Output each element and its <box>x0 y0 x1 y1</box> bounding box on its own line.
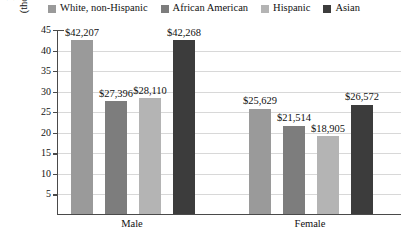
y-axis-title-line-1: Median Income <box>5 0 17 1</box>
y-axis-tick-mark <box>53 133 58 134</box>
legend-item: Hispanic <box>261 3 310 14</box>
bar-value-label: $26,572 <box>345 92 379 103</box>
bar-value-label: $18,905 <box>311 124 345 135</box>
y-axis-tick-mark <box>53 30 58 31</box>
legend-item-label: White, non-Hispanic <box>60 3 147 14</box>
y-axis-tick-label: 10 <box>41 169 51 179</box>
y-axis-tick-mark <box>53 92 58 93</box>
y-axis-tick-mark <box>53 174 58 175</box>
y-axis-tick-mark <box>53 51 58 52</box>
legend-swatch-icon <box>261 5 269 13</box>
gridline <box>58 51 401 52</box>
legend-swatch-icon <box>323 5 331 13</box>
y-axis-title-line-2: (thousands of dollars) <box>18 0 30 13</box>
bar: $28,110 <box>139 98 161 214</box>
y-axis-tick-mark <box>53 112 58 113</box>
y-axis-tick-label: 15 <box>41 148 51 158</box>
legend-item: White, non-Hispanic <box>48 3 147 14</box>
y-axis-tick-label: 20 <box>41 128 51 138</box>
y-axis-tick-label: 35 <box>41 66 51 76</box>
bar: $42,207 <box>71 40 93 214</box>
y-axis-tick-label: 40 <box>41 46 51 56</box>
bar: $26,572 <box>351 105 373 214</box>
bar-value-label: $25,629 <box>243 96 277 107</box>
bar-value-label: $42,207 <box>65 28 99 39</box>
bar: $25,629 <box>249 109 271 214</box>
legend-item: African American <box>161 3 249 14</box>
bar-value-label: $42,268 <box>167 28 201 39</box>
legend-item-label: Hispanic <box>273 3 310 14</box>
bar-value-label: $28,110 <box>133 86 167 97</box>
y-axis-tick-label: 5 <box>46 189 51 199</box>
bar: $42,268 <box>173 40 195 214</box>
legend-item-label: Asian <box>335 3 360 14</box>
y-axis-title: Median Income (thousands of dollars) <box>2 0 32 60</box>
bar: $18,905 <box>317 136 339 214</box>
x-axis-group-label-female: Female <box>295 219 326 230</box>
legend-item: Asian <box>323 3 360 14</box>
bar-value-label: $21,514 <box>277 113 311 124</box>
legend-swatch-icon <box>48 5 56 13</box>
legend-swatch-icon <box>161 5 169 13</box>
gridline <box>58 71 401 72</box>
bar-value-label: $27,396 <box>99 89 133 100</box>
bar: $27,396 <box>105 101 127 214</box>
y-axis-tick-label: 30 <box>41 87 51 97</box>
y-axis-top-cap <box>58 30 64 31</box>
legend-item-label: African American <box>173 3 249 14</box>
plot-area: 45403530252015105 $42,207$27,396$28,110$… <box>57 30 401 215</box>
y-axis-tick-mark <box>53 71 58 72</box>
y-axis-tick-label: 25 <box>41 107 51 117</box>
chart-legend: White, non-Hispanic African American His… <box>0 1 408 16</box>
y-axis-tick-label: 45 <box>41 25 51 35</box>
bar: $21,514 <box>283 126 305 214</box>
y-axis-tick-mark <box>53 194 58 195</box>
y-axis-tick-mark <box>53 153 58 154</box>
x-axis-group-label-male: Male <box>121 219 143 230</box>
